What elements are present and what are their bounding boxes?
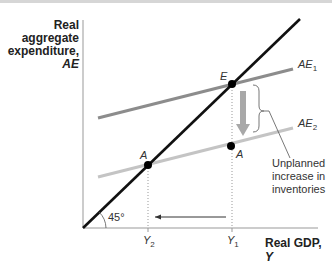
label-ae1: AE1 <box>298 58 317 73</box>
shift-arrow-head <box>236 124 250 136</box>
point-a-left <box>144 161 152 169</box>
label-ae2: AE2 <box>298 117 317 132</box>
label-45-degree: 45° <box>108 211 125 223</box>
label-a-left: A <box>140 149 147 161</box>
x-axis-label: Real GDP, Y <box>265 236 332 264</box>
shift-arrow-shaft <box>240 91 246 125</box>
point-e <box>228 80 236 88</box>
angle-arc <box>99 212 106 228</box>
annotation-text: Unplanned increase in inventories <box>272 157 325 196</box>
tick-label-y2: Y2 <box>143 234 155 249</box>
leftward-arrow-head <box>155 215 161 220</box>
point-a-right <box>227 142 235 150</box>
line-45-degree <box>83 19 300 228</box>
tick-label-y1: Y1 <box>227 234 239 249</box>
label-a-right: A <box>236 148 243 160</box>
label-e: E <box>220 70 227 82</box>
brace <box>253 85 264 132</box>
ae2-line <box>98 128 293 177</box>
